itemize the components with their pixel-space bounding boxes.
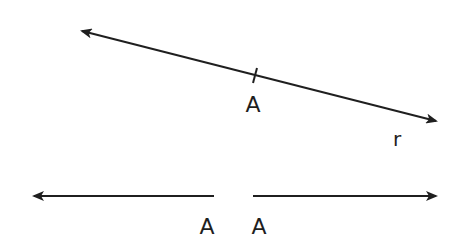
split-rays: A A [34,196,436,239]
line-r-left-half [82,31,255,75]
right-ray-endpoint-label: A [251,214,266,239]
line-r-label: r [393,127,402,151]
left-ray-endpoint-label: A [199,214,214,239]
point-a-label: A [245,92,260,117]
diagram-svg: A r A A [0,0,463,243]
line-r: A r [82,31,436,151]
diagram-canvas: A r A A [0,0,463,243]
line-r-right-half [255,75,436,121]
